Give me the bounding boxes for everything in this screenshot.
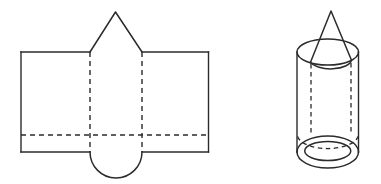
- geometry-figure: Net and solid of a cone-topped cylinder: [0, 0, 381, 184]
